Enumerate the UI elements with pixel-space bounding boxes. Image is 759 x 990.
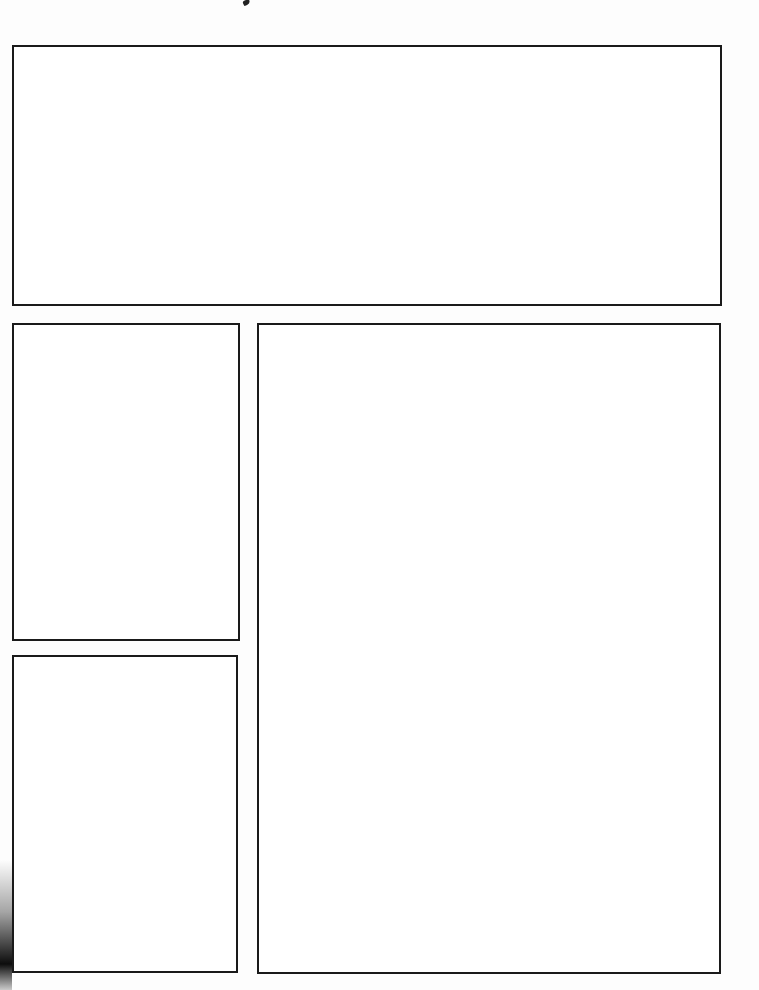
panel-left-upper[interactable] [12,323,240,641]
panel-top-wide[interactable] [12,45,722,306]
page-mark [242,0,250,6]
panel-left-lower[interactable] [12,655,238,973]
panel-right-tall[interactable] [257,323,721,974]
scan-edge-shadow [0,860,12,990]
